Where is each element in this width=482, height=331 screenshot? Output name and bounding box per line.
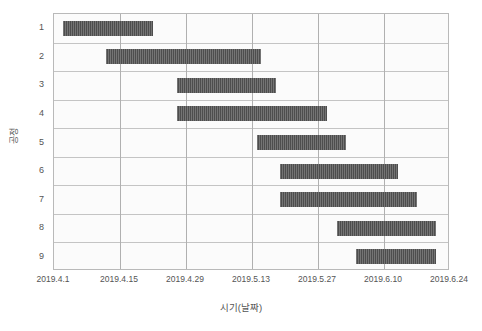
gridline-horizontal (54, 157, 448, 158)
x-axis-title: 시기(날짜) (0, 300, 482, 314)
gantt-bar-task-2 (106, 49, 262, 64)
gridline-horizontal (54, 185, 448, 186)
plot-area (53, 13, 449, 270)
gantt-bar-task-5 (257, 135, 347, 150)
y-axis-tick-7: 7 (26, 184, 50, 213)
gantt-bar-task-3 (177, 78, 276, 93)
y-axis-tick-2: 2 (26, 42, 50, 71)
y-axis-tick-1: 1 (26, 13, 50, 42)
x-axis-tick-2019.5.13: 2019.5.13 (232, 274, 270, 284)
y-axis-tick-6: 6 (26, 156, 50, 185)
y-axis-tick-4: 4 (26, 99, 50, 128)
gridline-horizontal (54, 71, 448, 72)
gridline-horizontal (54, 43, 448, 44)
gridline-horizontal (54, 128, 448, 129)
gridline-horizontal (54, 242, 448, 243)
gantt-bar-task-9 (356, 249, 436, 264)
gantt-bar-task-6 (280, 164, 398, 179)
y-axis-tick-8: 8 (26, 213, 50, 242)
gantt-bar-task-4 (177, 106, 328, 121)
x-axis-tick-2019.6.10: 2019.6.10 (364, 274, 402, 284)
y-axis-title: 공정 (0, 0, 26, 270)
y-axis-tick-labels: 123456789 (26, 13, 50, 270)
gantt-bar-task-1 (63, 21, 153, 36)
gantt-chart-figure: 공정 123456789 2019.4.12019.4.152019.4.292… (0, 0, 482, 331)
gridline-horizontal (54, 214, 448, 215)
x-axis-tick-2019.4.15: 2019.4.15 (100, 274, 138, 284)
x-axis-tick-labels: 2019.4.12019.4.152019.4.292019.5.132019.… (0, 274, 482, 290)
x-axis-tick-2019.4.1: 2019.4.1 (36, 274, 69, 284)
y-axis-tick-3: 3 (26, 70, 50, 99)
gridline-horizontal (54, 100, 448, 101)
gantt-bar-task-8 (337, 221, 436, 236)
y-axis-title-text: 공정 (7, 127, 20, 144)
gantt-bar-task-7 (280, 192, 417, 207)
x-axis-tick-2019.4.29: 2019.4.29 (166, 274, 204, 284)
y-axis-tick-9: 9 (26, 242, 50, 271)
x-axis-tick-2019.5.27: 2019.5.27 (298, 274, 336, 284)
x-axis-tick-2019.6.24: 2019.6.24 (430, 274, 468, 284)
y-axis-tick-5: 5 (26, 127, 50, 156)
